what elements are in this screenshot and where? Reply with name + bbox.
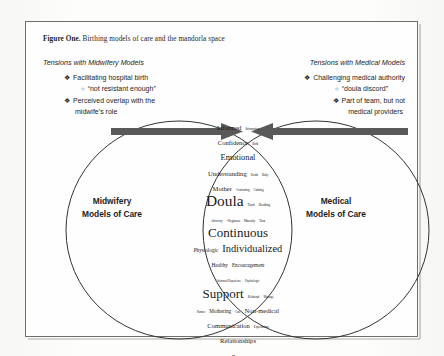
midwifery-circle-label: Midwifery Models of Care bbox=[57, 195, 167, 221]
word-cloud-row: Understanding Doubt Baby bbox=[178, 163, 298, 178]
word-cloud-term: Continuous bbox=[208, 227, 268, 239]
word-cloud-term: Touch bbox=[248, 204, 255, 207]
word-cloud-term: Expectations bbox=[254, 326, 269, 329]
word-cloud-row: Informed Experience Psychologic bbox=[178, 269, 298, 284]
word-cloud-row: Informed Information bbox=[178, 117, 298, 132]
word-cloud-term: Trust bbox=[259, 220, 265, 223]
word-cloud-term: Breathing bbox=[259, 204, 270, 207]
figure-caption-text: Birthing models of care and the mandorla… bbox=[81, 35, 225, 43]
midwifery-label-line1: Midwifery bbox=[57, 195, 167, 208]
word-cloud-term: • Regimens bbox=[227, 220, 240, 223]
word-cloud-term: Birth bbox=[252, 143, 258, 146]
mandorla-word-cloud: Informed InformationConfidence BirthEmot… bbox=[178, 117, 298, 322]
word-cloud-term: Doula bbox=[206, 194, 244, 209]
word-cloud-term: Informed Experience bbox=[217, 280, 241, 283]
word-cloud-row: Continuous bbox=[178, 224, 298, 239]
figure-label: Figure One. bbox=[43, 35, 81, 43]
word-cloud-term: Understanding bbox=[208, 171, 247, 177]
word-cloud-term: Physiologic bbox=[194, 248, 219, 253]
word-cloud-row: Partner Mothering Care Non-medical bbox=[178, 300, 298, 315]
word-cloud-row: Doula Touch Breathing bbox=[178, 193, 298, 209]
word-cloud-term: Encouragement bbox=[232, 263, 265, 268]
word-cloud-term: Confidence bbox=[218, 140, 248, 146]
word-cloud-row: Physical Reassurance bbox=[178, 346, 298, 356]
word-cloud-term: Relational bbox=[248, 296, 260, 299]
word-cloud-row: Communication Expectations bbox=[178, 315, 298, 330]
word-cloud-term: Advocacy bbox=[211, 220, 223, 223]
word-cloud-term: Massage bbox=[263, 296, 273, 299]
midwifery-label-line2: Models of Care bbox=[57, 208, 167, 221]
word-cloud-term: Communication bbox=[207, 323, 250, 329]
word-cloud-row: Mother Comforting Calming bbox=[178, 178, 298, 193]
word-cloud-term: Psychologic bbox=[245, 280, 259, 283]
word-cloud-row: Emotional bbox=[178, 147, 298, 162]
word-cloud-term: Informed bbox=[217, 125, 242, 131]
word-cloud-term: Relationships bbox=[220, 338, 256, 344]
word-cloud-term: Partner bbox=[197, 311, 205, 314]
word-cloud-term: Mothering bbox=[209, 309, 231, 314]
word-cloud-row: Healthy Encouragement bbox=[178, 254, 298, 269]
word-cloud-term: Care bbox=[235, 311, 240, 314]
figure-frame: Figure One. Birthing models of care and … bbox=[25, 21, 418, 337]
word-cloud-row: Advocacy • Regimens Maternity Trust bbox=[178, 209, 298, 224]
figure-caption: Figure One. Birthing models of care and … bbox=[43, 35, 225, 43]
word-cloud-term: Healthy bbox=[212, 263, 228, 268]
word-cloud-term: Baby bbox=[262, 174, 268, 177]
word-cloud-row: Confidence Birth bbox=[178, 132, 298, 147]
word-cloud-row: Relationships bbox=[178, 330, 298, 345]
word-cloud-term: Maternity bbox=[244, 220, 255, 223]
word-cloud-row: Support Relational Massage bbox=[178, 285, 298, 300]
word-cloud-row: Physiologic Individualized bbox=[178, 239, 298, 254]
